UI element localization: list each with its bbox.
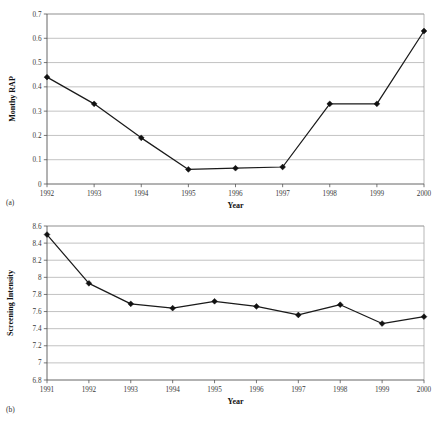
x-tick-label: 1991 [40, 386, 55, 394]
y-tick-label: 7.8 [33, 291, 42, 299]
x-tick-label: 1998 [333, 386, 348, 394]
y-tick-label: 8.2 [33, 257, 42, 265]
chart-panel-b: 6.877.27.47.67.888.28.48.619911992199319… [0, 212, 434, 424]
subplot-label: (a) [6, 198, 15, 207]
x-tick-label: 1992 [40, 190, 55, 198]
y-axis-title: Monthy RAP [8, 76, 17, 122]
x-tick-label: 1994 [134, 190, 149, 198]
x-tick-label: 1997 [275, 190, 290, 198]
x-axis-title: Year [228, 201, 244, 210]
x-tick-label: 1995 [181, 190, 196, 198]
figure-container: 00.10.20.30.40.50.60.7199219931994199519… [0, 0, 434, 424]
x-tick-label: 1992 [82, 386, 97, 394]
x-tick-label: 1995 [207, 386, 222, 394]
x-tick-label: 1999 [375, 386, 390, 394]
y-tick-label: 7.6 [33, 308, 42, 316]
y-tick-label: 7.4 [33, 325, 42, 333]
x-tick-label: 2000 [417, 190, 432, 198]
line-chart-screening-intensity: 6.877.27.47.67.888.28.48.619911992199319… [0, 212, 434, 424]
y-tick-label: 7 [38, 359, 42, 367]
y-tick-label: 0 [38, 181, 42, 189]
x-tick-label: 1996 [228, 190, 243, 198]
data-point-marker [254, 304, 260, 310]
y-axis-title: Screening Intensity [6, 270, 15, 336]
x-tick-label: 1993 [124, 386, 139, 394]
data-point-marker [421, 314, 427, 320]
y-tick-label: 0.1 [33, 156, 42, 164]
x-tick-label: 1993 [87, 190, 102, 198]
x-tick-label: 2000 [417, 386, 432, 394]
y-tick-label: 0.5 [33, 59, 42, 67]
y-tick-label: 0.6 [33, 35, 42, 43]
series-line [47, 235, 424, 324]
subplot-label: (b) [6, 405, 15, 414]
y-tick-label: 0.4 [33, 83, 42, 91]
y-tick-label: 8.4 [33, 240, 42, 248]
chart-panel-a: 00.10.20.30.40.50.60.7199219931994199519… [0, 0, 434, 212]
data-point-marker [212, 298, 218, 304]
y-tick-label: 7.2 [33, 342, 42, 350]
data-point-marker [128, 301, 134, 307]
series-line [47, 31, 424, 169]
y-tick-label: 0.3 [33, 108, 42, 116]
y-tick-label: 8.6 [33, 223, 42, 231]
data-point-marker [44, 74, 50, 80]
x-tick-label: 1996 [249, 386, 264, 394]
x-tick-label: 1997 [291, 386, 306, 394]
data-point-marker [170, 305, 176, 311]
data-point-marker [379, 321, 385, 327]
data-point-marker [337, 302, 343, 308]
data-point-marker [233, 165, 239, 171]
line-chart-monthy-rap: 00.10.20.30.40.50.60.7199219931994199519… [0, 0, 434, 212]
data-point-marker [295, 312, 301, 318]
y-tick-label: 6.8 [33, 377, 42, 385]
y-tick-label: 8 [38, 274, 42, 282]
x-axis-title: Year [228, 397, 244, 406]
y-tick-label: 0.7 [33, 11, 42, 19]
x-tick-label: 1999 [370, 190, 385, 198]
x-tick-label: 1998 [323, 190, 338, 198]
x-tick-label: 1994 [165, 386, 180, 394]
y-tick-label: 0.2 [33, 132, 42, 140]
